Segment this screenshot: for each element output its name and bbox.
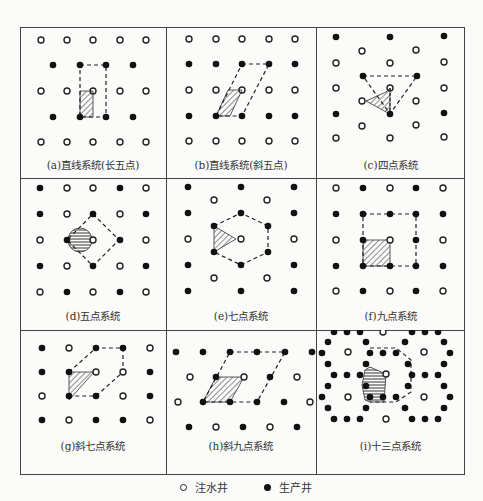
panel-caption: (b)直线系统(斜五点) xyxy=(166,157,316,172)
well-pattern-b xyxy=(166,27,316,162)
legend: 注水井 生产井 xyxy=(180,479,348,495)
legend-label: 注水井 xyxy=(195,479,228,495)
filled-circle-icon xyxy=(264,484,271,491)
panel-f-nine-spot: (f)九点系统 xyxy=(316,178,465,330)
panel-d-five-spot: (d)五点系统 xyxy=(20,178,166,330)
panel-g-skewed-seven-spot: (g)斜七点系统 xyxy=(20,330,166,475)
panel-caption: (i)十三点系统 xyxy=(316,438,465,453)
panel-caption: (f)九点系统 xyxy=(316,308,465,323)
legend-item-production-well: 生产井 xyxy=(264,479,312,495)
well-pattern-c xyxy=(316,27,465,162)
well-pattern-f xyxy=(316,178,465,313)
legend-label: 生产井 xyxy=(279,479,312,495)
legend-item-injection-well: 注水井 xyxy=(180,479,228,495)
panel-caption: (c)四点系统 xyxy=(316,157,465,172)
well-pattern-a xyxy=(20,27,166,162)
well-pattern-d xyxy=(20,178,166,313)
panel-i-thirteen-spot: (i)十三点系统 xyxy=(316,330,465,475)
panel-caption: (d)五点系统 xyxy=(20,308,166,323)
panel-c-four-spot: (c)四点系统 xyxy=(316,27,465,178)
panel-caption: (h)斜九点系统 xyxy=(166,438,316,453)
panel-caption: (a)直线系统(长五点) xyxy=(20,157,166,172)
panel-h-skewed-nine-spot: (h)斜九点系统 xyxy=(166,330,316,475)
panel-e-seven-spot: (e)七点系统 xyxy=(166,178,316,330)
panel-a-linear-long-five-spot: (a)直线系统(长五点) xyxy=(20,27,166,178)
panel-b-linear-staggered-five-spot: (b)直线系统(斜五点) xyxy=(166,27,316,178)
open-circle-icon xyxy=(180,484,187,491)
panel-caption: (g)斜七点系统 xyxy=(20,438,166,453)
well-pattern-e xyxy=(166,178,316,313)
panel-caption: (e)七点系统 xyxy=(166,308,316,323)
